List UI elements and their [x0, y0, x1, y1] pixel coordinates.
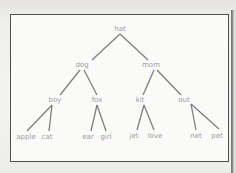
tree-edges — [27, 34, 219, 131]
edge-boy-cat — [49, 105, 52, 131]
node-pet: pet — [211, 132, 223, 140]
node-fox: fox — [92, 96, 103, 104]
edge-fox-ear — [91, 105, 97, 131]
node-ear: ear — [82, 133, 94, 141]
edge-boy-apple — [27, 105, 52, 131]
node-love: love — [148, 132, 163, 140]
tree-nodes: hatdogmomboyfoxkitoutapplecateargirljetl… — [16, 25, 223, 141]
edge-mom-out — [157, 70, 181, 95]
edge-kit-jet — [137, 105, 144, 130]
node-boy: boy — [49, 96, 62, 104]
node-out: out — [178, 96, 190, 104]
node-mom: mom — [142, 61, 160, 69]
node-dog: dog — [75, 61, 88, 69]
node-net: net — [190, 132, 202, 140]
edge-hat-dog — [92, 34, 120, 60]
edge-mom-kit — [143, 70, 154, 95]
node-jet: jet — [129, 132, 139, 140]
tree-diagram: hatdogmomboyfoxkitoutapplecateargirljetl… — [0, 0, 236, 173]
node-cat: cat — [42, 133, 53, 141]
edge-fox-girl — [97, 105, 106, 131]
edge-kit-love — [144, 105, 154, 130]
edge-dog-fox — [84, 70, 97, 95]
node-kit: kit — [136, 96, 145, 104]
edge-dog-boy — [60, 70, 80, 95]
node-girl: girl — [100, 133, 111, 141]
edge-hat-mom — [120, 34, 148, 60]
node-hat: hat — [114, 25, 126, 33]
node-apple: apple — [16, 133, 35, 141]
